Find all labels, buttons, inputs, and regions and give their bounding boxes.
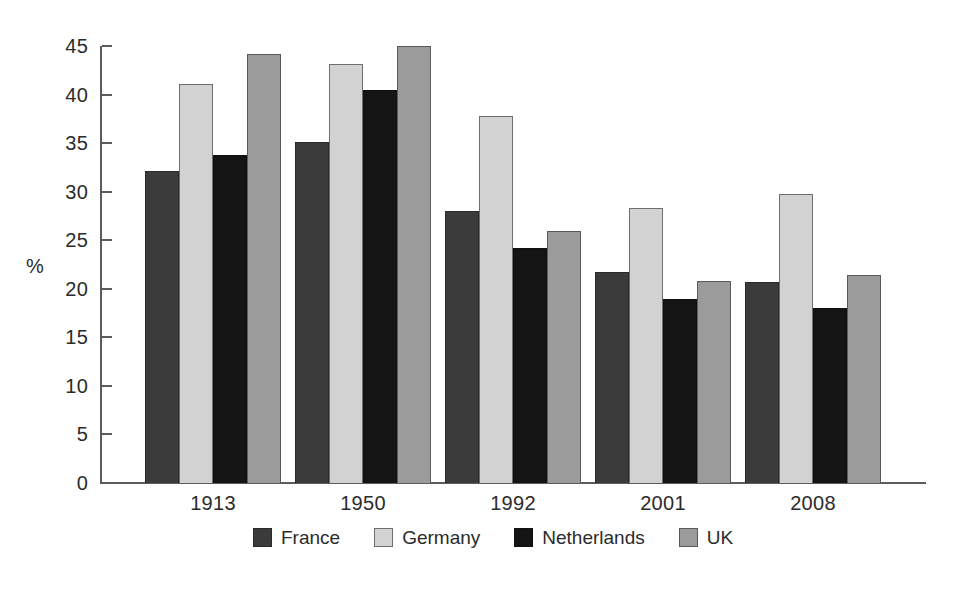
bar-chart: % 051015202530354045 1913195019922001200… — [0, 0, 961, 590]
y-axis-tick-label: 0 — [38, 473, 88, 493]
bar-netherlands-1950 — [363, 90, 397, 483]
y-axis-tick-label-text: 0 — [44, 473, 88, 493]
y-axis-tick-label: 40 — [38, 85, 88, 105]
x-axis-tick-label-1913: 1913 — [133, 492, 293, 514]
y-axis-tick — [102, 433, 112, 435]
bar-france-1992 — [445, 211, 479, 483]
bar-group-2008 — [745, 46, 881, 483]
y-axis-tick-label-text: 10 — [44, 376, 88, 396]
y-axis-tick — [102, 94, 112, 96]
y-axis-tick-label-text: 40 — [44, 85, 88, 105]
bar-germany-2008 — [779, 194, 813, 483]
y-axis-tick — [102, 385, 112, 387]
y-axis-tick-label: 15 — [38, 327, 88, 347]
legend-swatch-france — [253, 528, 272, 547]
y-axis-tick — [102, 45, 112, 47]
y-axis-tick-label-text: 25 — [44, 230, 88, 250]
legend-item-uk[interactable]: UK — [679, 528, 733, 547]
bar-france-2001 — [595, 272, 629, 483]
y-axis-tick-label-text: 5 — [44, 424, 88, 444]
y-axis-tick-label-text: 35 — [44, 133, 88, 153]
y-axis-tick-label: 45 — [38, 36, 88, 56]
y-axis-tick — [102, 482, 112, 484]
legend-item-netherlands[interactable]: Netherlands — [514, 528, 644, 547]
bar-germany-1950 — [329, 64, 363, 483]
y-axis-tick-label: 30 — [38, 182, 88, 202]
bar-germany-1913 — [179, 84, 213, 483]
bar-germany-1992 — [479, 116, 513, 483]
legend-swatch-germany — [374, 528, 393, 547]
y-axis-tick-label: 5 — [38, 424, 88, 444]
y-axis-tick-label: 35 — [38, 133, 88, 153]
bar-netherlands-1913 — [213, 155, 247, 483]
bar-uk-1913 — [247, 54, 281, 483]
legend-label-france: France — [281, 528, 340, 547]
bar-france-1913 — [145, 171, 179, 483]
y-axis-tick — [102, 239, 112, 241]
bar-germany-2001 — [629, 208, 663, 483]
bar-group-2001 — [595, 46, 731, 483]
legend-label-uk: UK — [707, 528, 733, 547]
y-axis-tick-label: 20 — [38, 279, 88, 299]
y-axis-tick-label-text: 15 — [44, 327, 88, 347]
bar-uk-2001 — [697, 281, 731, 483]
y-axis-tick-label: 10 — [38, 376, 88, 396]
legend-item-germany[interactable]: Germany — [374, 528, 480, 547]
bar-netherlands-1992 — [513, 248, 547, 483]
legend-swatch-uk — [679, 528, 698, 547]
x-axis-tick-label-2001: 2001 — [583, 492, 743, 514]
y-axis-tick — [102, 336, 112, 338]
y-axis-tick-label-text: 20 — [44, 279, 88, 299]
bar-france-1950 — [295, 142, 329, 483]
legend-label-germany: Germany — [402, 528, 480, 547]
bar-group-1913 — [145, 46, 281, 483]
chart-legend: FranceGermanyNetherlandsUK — [253, 528, 767, 547]
bar-group-1950 — [295, 46, 431, 483]
y-axis-tick — [102, 191, 112, 193]
y-axis-tick — [102, 288, 112, 290]
y-axis-tick — [102, 142, 112, 144]
legend-label-netherlands: Netherlands — [542, 528, 644, 547]
bar-uk-1950 — [397, 46, 431, 483]
x-axis-tick-label-2008: 2008 — [733, 492, 893, 514]
bar-netherlands-2008 — [813, 308, 847, 483]
legend-item-france[interactable]: France — [253, 528, 340, 547]
x-axis-tick-label-1992: 1992 — [433, 492, 593, 514]
y-axis-tick-label-text: 30 — [44, 182, 88, 202]
bar-uk-1992 — [547, 231, 581, 483]
y-axis-tick-label: 25 — [38, 230, 88, 250]
bar-uk-2008 — [847, 275, 881, 483]
bar-france-2008 — [745, 282, 779, 483]
bar-group-1992 — [445, 46, 581, 483]
y-axis-unit-label: % — [26, 256, 44, 276]
bar-netherlands-2001 — [663, 299, 697, 484]
y-axis-tick-label-text: 45 — [44, 36, 88, 56]
legend-swatch-netherlands — [514, 528, 533, 547]
x-axis-tick-label-1950: 1950 — [283, 492, 443, 514]
y-axis-line — [100, 46, 102, 484]
